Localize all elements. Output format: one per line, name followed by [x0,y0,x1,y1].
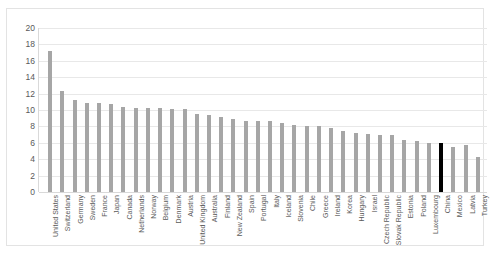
label-slot: China [435,194,447,253]
bar-slot [313,28,325,192]
bar-chart: 20181614121086420 United StatesSwitzerla… [0,0,495,253]
y-axis-tick-label: 14 [26,73,35,82]
y-axis-tick-label: 20 [26,24,35,33]
category-label: Portugal [260,169,267,195]
category-label: Netherlands [137,157,144,195]
category-label: United States [52,153,59,195]
label-slot: Mexico [447,194,459,253]
category-label: New Zealand [235,154,242,195]
category-label: Japan [113,176,120,195]
label-slot: Luxembourg [423,194,435,253]
category-label: Poland [419,173,426,195]
category-label: China [444,177,451,195]
category-label: Slovak Republic [395,145,402,195]
label-slot: Norway [141,194,153,253]
label-slot: Latvia [460,194,472,253]
label-slot: Czech Republic [374,194,386,253]
label-slot: Finland [215,194,227,253]
bar [378,135,382,192]
label-slot: Greece [313,194,325,253]
category-label: France [101,173,108,195]
bar [464,145,468,192]
label-slot: New Zealand [227,194,239,253]
bar-slot [325,28,337,192]
label-slot: Poland [411,194,423,253]
category-label: Hungary [358,169,365,195]
bar-slot [362,28,374,192]
y-axis-tick-label: 4 [30,155,35,164]
category-label: Estonia [407,172,414,195]
label-slot: Hungary [349,194,361,253]
label-slot: France [92,194,104,253]
category-label: Denmark [174,167,181,195]
label-slot: Israel [362,194,374,253]
bar-series [39,28,487,192]
y-axis-tick-label: 10 [26,106,35,115]
y-axis-tick-label: 16 [26,57,35,66]
category-label-text: Turkey [480,195,487,216]
label-slot: Belgium [153,194,165,253]
label-slot: Sweden [80,194,92,253]
category-label: Israel [370,178,377,195]
bar-slot [337,28,349,192]
label-slot: Slovenia [288,194,300,253]
bar-slot [252,28,264,192]
category-label: United Kingdom [199,145,206,195]
label-slot: United States [43,194,55,253]
bar [268,121,272,192]
bar [427,143,431,192]
label-slot: Italy [264,194,276,253]
bar-slot [154,28,166,192]
category-label: Sweden [88,170,95,195]
y-axis-tick-label: 12 [26,89,35,98]
label-slot: Canada [117,194,129,253]
label-slot: Australia [202,194,214,253]
category-label: Greece [321,172,328,195]
plot-area: 20181614121086420 [38,28,487,192]
bar [439,143,443,192]
category-label: Latvia [468,176,475,195]
bar [476,157,480,192]
label-slot: Japan [104,194,116,253]
label-slot: Germany [68,194,80,253]
category-label: Norway [150,171,157,195]
category-label: Korea [346,176,353,195]
bar-slot [411,28,423,192]
bar-slot [276,28,288,192]
y-axis-tick-label: 8 [30,122,35,131]
label-slot: Iceland [276,194,288,253]
bar-slot [349,28,361,192]
chart-frame: 20181614121086420 United StatesSwitzerla… [6,8,484,246]
bar-slot [93,28,105,192]
bar-slot [472,28,484,192]
label-slot: Turkey [472,194,484,253]
category-label: Germany [76,166,83,195]
category-axis-labels: United StatesSwitzerlandGermanySwedenFra… [38,194,487,253]
bar [317,126,321,192]
category-label: Switzerland [64,159,71,195]
bar-slot [105,28,117,192]
bar [329,128,333,192]
y-axis-tick-label: 2 [30,171,35,180]
label-slot: Estonia [398,194,410,253]
label-slot: Korea [337,194,349,253]
category-label: Iceland [284,172,291,195]
bar-slot [264,28,276,192]
category-label: Czech Republic [382,146,389,195]
category-label: Canada [125,170,132,195]
category-label: Ireland [333,174,340,195]
bar [366,134,370,192]
category-label: Chile [309,179,316,195]
label-slot: Slovak Republic [386,194,398,253]
bar-slot [117,28,129,192]
label-slot: Austria [178,194,190,253]
bar [219,117,223,192]
category-label: Spain [248,177,255,195]
label-slot: Switzerland [55,194,67,253]
category-label: Austria [186,173,193,195]
y-axis-tick-label: 0 [30,188,35,197]
y-axis-tick-label: 18 [26,40,35,49]
category-label: Mexico [456,173,463,195]
bar-slot [459,28,471,192]
label-slot: Portugal [251,194,263,253]
